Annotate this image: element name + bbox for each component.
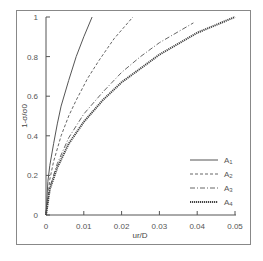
line-chart: 00.010.020.030.040.0500.20.40.60.81 A1A2… (0, 0, 263, 261)
x-axis-label: ur/D (132, 231, 147, 240)
x-tick-label: 0.04 (189, 222, 205, 231)
x-tick-label: 0.02 (114, 222, 130, 231)
y-tick-label: 1 (34, 13, 39, 22)
y-tick-label: 0.6 (27, 92, 39, 101)
x-tick-label: 0 (44, 222, 49, 231)
y-axis-label: 1-σ/σ0 (20, 104, 29, 128)
y-tick-label: 0.2 (27, 171, 39, 180)
chart-frame (17, 11, 251, 245)
y-tick-label: 0.8 (27, 53, 39, 62)
x-tick-label: 0.01 (76, 222, 92, 231)
x-tick-label: 0.05 (227, 222, 243, 231)
y-tick-label: 0.4 (27, 132, 39, 141)
x-tick-label: 0.03 (152, 222, 168, 231)
y-tick-label: 0 (34, 211, 39, 220)
